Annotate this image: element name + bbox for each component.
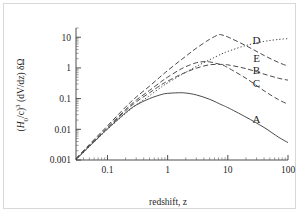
y-tick-label: 0.1	[59, 94, 71, 104]
y-title-dvdz: (dV/dz)	[16, 72, 27, 102]
curve-label-a: A	[253, 113, 261, 125]
y-tick-label: 0.001	[50, 155, 72, 165]
curve-a	[76, 93, 288, 160]
curve-label-c: C	[253, 77, 260, 89]
axes-group	[76, 28, 288, 160]
x-tick-label: 0.1	[102, 165, 114, 175]
y-title-solid-angle: δΩ	[16, 59, 26, 71]
figure-container: 0.11101001010.10.010.001 DEBCA redshift,…	[0, 0, 301, 214]
curve-label-d: D	[253, 34, 261, 46]
y-tick-label: 10	[62, 33, 72, 43]
y-tick-label: 0.01	[54, 125, 71, 135]
svg-text:(H0/c)3 (dV/dz) δΩ: (H0/c)3 (dV/dz) δΩ	[14, 59, 30, 132]
curve-label-b: B	[253, 64, 260, 76]
plot-canvas: 0.11101001010.10.010.001 DEBCA redshift,…	[0, 0, 301, 214]
y-tick-label: 1	[66, 63, 71, 73]
curve-label-e: E	[253, 52, 260, 64]
x-axis-title: redshift, z	[149, 197, 187, 207]
x-tick-label: 100	[281, 165, 296, 175]
x-tick-label: 1	[165, 165, 170, 175]
x-tick-label: 10	[223, 165, 233, 175]
curve-labels-group: DEBCA	[253, 34, 261, 125]
y-axis-title: (H0/c)3 (dV/dz) δΩ	[14, 59, 30, 132]
y-title-slash-c: /c	[16, 111, 26, 118]
